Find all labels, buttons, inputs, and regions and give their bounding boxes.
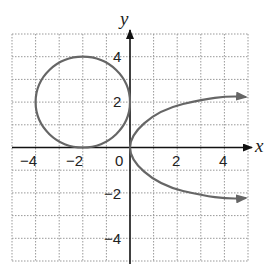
y-tick-label: −2 — [104, 185, 121, 202]
x-tick-label: −2 — [66, 152, 83, 169]
parabola-lower-branch — [130, 148, 246, 199]
parabola-upper-branch — [130, 96, 246, 147]
y-tick-label: −4 — [104, 230, 121, 247]
coordinate-plane: x y −4 −2 0 2 4 4 2 −2 −4 — [0, 0, 275, 275]
x-axis-label: x — [254, 135, 264, 156]
y-tick-label: 4 — [113, 48, 121, 65]
x-tick-label: 4 — [219, 152, 227, 169]
y-axis-label: y — [118, 8, 129, 29]
origin-label: 0 — [115, 152, 123, 169]
x-tick-label: 2 — [172, 152, 180, 169]
y-tick-label: 2 — [113, 93, 121, 110]
x-tick-label: −4 — [20, 152, 37, 169]
